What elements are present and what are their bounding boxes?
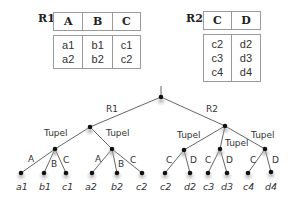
- leaf-label: a2: [85, 181, 97, 192]
- branch-label-r2: R2: [206, 104, 218, 114]
- tuple-node: [218, 147, 223, 152]
- edge-label: D: [272, 155, 279, 165]
- leaf-node: [140, 171, 145, 176]
- leaf-node: [64, 171, 69, 176]
- edge-label: C: [205, 155, 211, 165]
- leaf-label: b1: [39, 181, 51, 192]
- leaf-label: c4: [243, 181, 254, 192]
- edge-label: C: [63, 155, 69, 165]
- leaf-node: [225, 171, 230, 176]
- edge-label: C: [166, 155, 172, 165]
- edge-label: B: [51, 159, 57, 169]
- tuple-node: [53, 147, 58, 152]
- tuple-node: [182, 148, 187, 153]
- leaf-node: [188, 171, 193, 176]
- leaf-node: [163, 171, 168, 176]
- leaf-label: b2: [111, 181, 123, 192]
- edge-label: B: [118, 159, 124, 169]
- leaf-node: [246, 171, 251, 176]
- tuple-node: [263, 147, 268, 152]
- leaf-label: a1: [16, 181, 28, 192]
- leaf-node: [115, 171, 120, 176]
- leaf-node: [206, 171, 211, 176]
- leaf-node: [269, 170, 274, 175]
- edge-label: C: [130, 155, 136, 165]
- tuple-node: [110, 147, 115, 152]
- edge-label: A: [28, 154, 35, 164]
- data-tree: R1 R2 Tupel Tupel Tupel Tupel Tupel A B …: [0, 0, 294, 201]
- leaf-label: c1: [62, 181, 73, 192]
- edge-label: D: [190, 155, 197, 165]
- r2-node: [223, 124, 228, 129]
- branch-label-r1: R1: [106, 104, 118, 114]
- leaf-label: c2: [160, 181, 171, 192]
- leaf-node: [19, 171, 24, 176]
- leaf-node: [42, 171, 47, 176]
- edge-label: D: [226, 155, 233, 165]
- leaf-node: [90, 171, 95, 176]
- tuple-label: Tupel: [105, 128, 130, 138]
- edge-label: A: [95, 154, 102, 164]
- root-node: [159, 95, 164, 100]
- leaf-label: c2: [136, 181, 147, 192]
- tuple-label: Tupel: [43, 128, 68, 138]
- leaf-label: c3: [203, 181, 214, 192]
- leaf-label: d3: [221, 181, 233, 192]
- leaf-label: d2: [184, 181, 196, 192]
- leaf-label: d4: [265, 181, 277, 192]
- tuple-label: Tupel: [224, 138, 249, 148]
- tuple-label: Tupel: [250, 130, 275, 140]
- r1-node: [88, 125, 93, 130]
- edge-label: C: [250, 155, 256, 165]
- tuple-label: Tupel: [176, 130, 201, 140]
